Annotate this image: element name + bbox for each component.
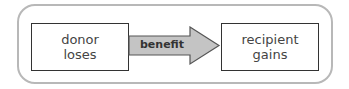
donor-sublabel: loses (63, 47, 96, 62)
donor-label: donor (61, 32, 99, 47)
recipient-label: recipient (241, 32, 298, 47)
donor-box: donor loses (31, 23, 129, 71)
recipient-box: recipient gains (221, 23, 319, 71)
benefit-label: benefit (137, 38, 187, 51)
recipient-sublabel: gains (253, 47, 288, 62)
